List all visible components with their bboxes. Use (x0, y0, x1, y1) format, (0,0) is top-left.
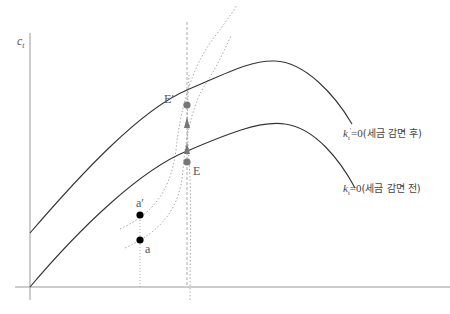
arrow-up-icon (184, 143, 190, 154)
phase-diagram-canvas (0, 0, 450, 314)
label-a: a (145, 242, 150, 257)
label-E-prime: E′ (164, 92, 174, 107)
y-axis-label: ct (17, 34, 25, 50)
kdot-curve-before (30, 123, 355, 287)
point-E (183, 158, 190, 165)
label-a-prime: a′ (136, 196, 144, 211)
point-a-prime (136, 211, 143, 218)
kdot-before-label: kt=0(세금 감면 전) (343, 180, 421, 197)
trajectory-path (187, 75, 190, 300)
label-E: E (193, 164, 200, 179)
point-a (136, 236, 143, 243)
kdot-after-label: kt'=0(세금 감면 후) (343, 125, 422, 142)
arrow-up-icon (184, 117, 190, 128)
kdot-curve-after (30, 61, 352, 233)
point-E-prime (183, 101, 190, 108)
